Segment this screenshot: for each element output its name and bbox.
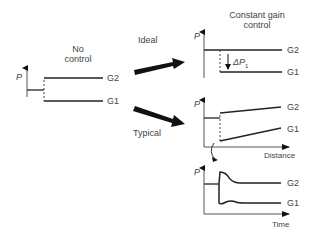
y-axis-label: P — [16, 72, 22, 82]
zoom-curve-head — [212, 157, 218, 162]
diagram-canvas — [0, 0, 317, 245]
g1-label: G1 — [287, 198, 299, 208]
no-control-plot — [27, 68, 103, 101]
g2-label: G2 — [107, 73, 119, 83]
typical-time-plot — [204, 168, 289, 214]
zoom-curve — [211, 143, 215, 159]
g2-line — [220, 107, 281, 113]
delta-p-label: ΔP1 — [233, 57, 248, 71]
g1-response — [219, 184, 281, 204]
y-axis-label: P — [194, 167, 200, 177]
ideal-label: Ideal — [138, 35, 158, 45]
constant-gain-title-1: Constant gain — [212, 10, 302, 20]
ideal-arrow — [134, 58, 185, 75]
g1-label: G1 — [287, 124, 299, 134]
g1-line — [220, 128, 281, 141]
g1-label: G1 — [107, 96, 119, 106]
x-axis-label: Distance — [264, 151, 295, 161]
g1-label: G1 — [287, 67, 299, 77]
typical-label: Typical — [133, 128, 161, 138]
typical-arrow — [133, 106, 185, 127]
g2-label: G2 — [287, 45, 299, 55]
x-axis-label: Time — [272, 220, 289, 230]
no-control-title-2: control — [52, 54, 104, 64]
no-control-title-1: No — [58, 44, 98, 54]
g2-label: G2 — [287, 102, 299, 112]
constant-gain-title-2: control — [212, 20, 302, 30]
y-axis-label: P — [194, 99, 200, 109]
g2-label: G2 — [287, 178, 299, 188]
g2-response — [219, 172, 281, 184]
y-axis-label: P — [194, 31, 200, 41]
ideal-plot — [204, 32, 282, 78]
